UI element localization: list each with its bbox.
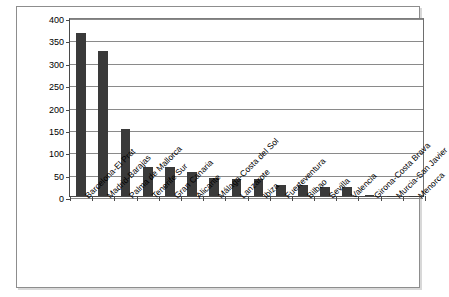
- chart-figure: 050100150200250300350400 Barcelona-El Pr…: [16, 6, 420, 288]
- bar: [76, 33, 86, 196]
- x-axis-category-labels: Barcelona-El PratMadrid-BarajasPalma de …: [69, 197, 424, 289]
